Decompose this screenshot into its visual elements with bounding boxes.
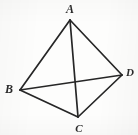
diagonal-bd: [20, 75, 122, 90]
diagonal-ac: [70, 20, 78, 117]
vertex-label-c: C: [75, 123, 82, 134]
edge-group: [20, 20, 122, 117]
edge-bc: [20, 90, 78, 117]
vertex-label-a: A: [66, 3, 74, 15]
edge-ab: [20, 20, 70, 90]
geometry-figure: A B C D: [0, 0, 138, 135]
vertex-label-b: B: [5, 83, 13, 95]
figure-canvas: [0, 0, 138, 135]
edge-ad: [70, 20, 122, 75]
vertex-label-d: D: [126, 67, 134, 78]
